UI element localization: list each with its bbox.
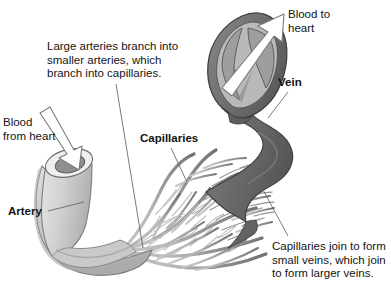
diagram-canvas: Blood from heart Large arteries branch i… xyxy=(0,0,391,285)
leader-large-arteries xyxy=(116,84,143,248)
vein-vessel xyxy=(206,108,293,248)
label-vein: Vein xyxy=(278,76,302,90)
label-capillaries: Capillaries xyxy=(140,132,198,146)
label-artery: Artery xyxy=(8,205,42,219)
leader-capillaries xyxy=(171,148,187,182)
leader-capillaries-join xyxy=(262,188,288,236)
label-capillaries-join-to-form: Capillaries join to form small veins, wh… xyxy=(272,240,386,281)
label-large-arteries-branch: Large arteries branch into smaller arter… xyxy=(47,40,178,81)
label-blood-from-heart: Blood from heart xyxy=(3,116,55,143)
label-blood-to-heart: Blood to heart xyxy=(288,8,330,35)
